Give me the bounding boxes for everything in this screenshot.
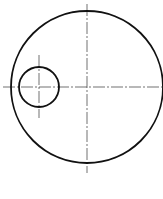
technical-drawing [0,0,163,199]
